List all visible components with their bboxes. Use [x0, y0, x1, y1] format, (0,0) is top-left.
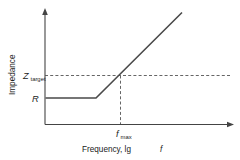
max-frequency-label: f max [116, 129, 132, 140]
x-axis-label-variable: f [160, 145, 163, 154]
x-axis-label-text: Frequency, lg [82, 145, 131, 154]
target-impedance-subscript: target [31, 76, 46, 82]
max-frequency-subscript: max [121, 134, 132, 140]
target-impedance-label: Z target [22, 71, 46, 82]
target-impedance-symbol: Z [22, 71, 29, 81]
impedance-curve [46, 13, 183, 99]
y-axis-label: Impedance [8, 54, 17, 95]
x-axis-label: Frequency, lg f [82, 145, 163, 154]
chart-axes [42, 8, 234, 127]
impedance-frequency-chart: Impedance Z target R f max Frequency, lg… [0, 0, 240, 160]
resistance-level-label: R [32, 94, 39, 104]
x-axis-arrowhead [227, 122, 234, 127]
chart-guides [45, 76, 231, 125]
chart-svg: Impedance Z target R f max Frequency, lg… [0, 0, 240, 160]
y-axis-arrowhead [42, 8, 48, 15]
max-frequency-symbol: f [116, 129, 120, 139]
